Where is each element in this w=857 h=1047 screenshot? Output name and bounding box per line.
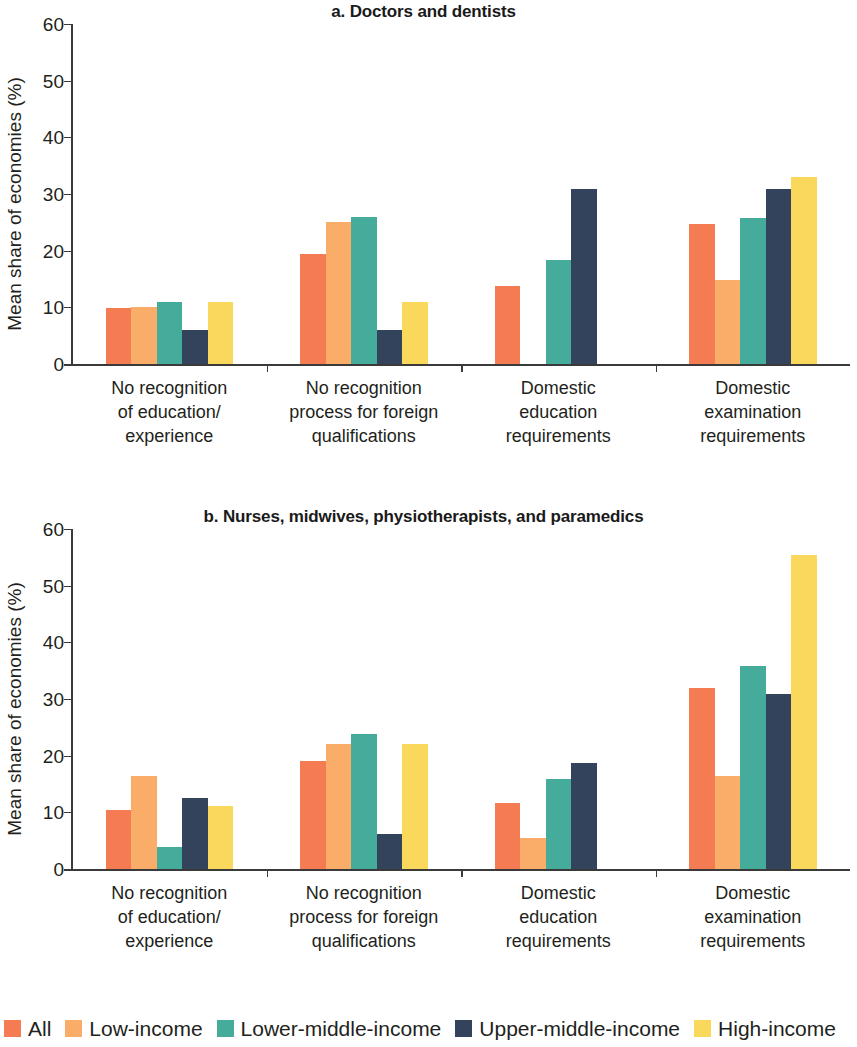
x-tick-label: Domesticexaminationrequirements xyxy=(656,376,851,448)
x-tick-label-line: requirements xyxy=(461,929,656,953)
x-tick-label-line: Domestic xyxy=(461,376,656,400)
x-group-separator xyxy=(656,869,658,877)
x-tick-label: No recognitionof education/experience xyxy=(72,376,267,448)
bar xyxy=(402,744,428,869)
y-tick-mark xyxy=(64,137,71,138)
y-tick-mark xyxy=(64,756,71,757)
bar xyxy=(106,308,132,364)
x-tick-label-line: No recognition xyxy=(267,376,462,400)
y-tick-mark xyxy=(64,642,71,643)
bar xyxy=(546,779,572,869)
y-tick-mark xyxy=(64,24,71,25)
x-tick-label-line: No recognition xyxy=(72,881,267,905)
panel-a-y-axis-label: Mean share of economies (%) xyxy=(2,24,28,384)
x-tick-label-line: Domestic xyxy=(656,376,851,400)
bar xyxy=(157,847,183,869)
bar xyxy=(182,798,208,869)
x-tick-label-line: of education/ xyxy=(72,905,267,929)
bar xyxy=(377,834,403,869)
bar xyxy=(300,761,326,869)
y-tick-mark xyxy=(64,699,71,700)
x-tick-label-line: Domestic xyxy=(656,881,851,905)
legend-item: All xyxy=(4,1018,51,1039)
bar xyxy=(715,776,741,869)
chart-panel-a: a. Doctors and dentists Mean share of ec… xyxy=(0,0,857,500)
x-group-separator xyxy=(267,869,269,877)
legend-label: Upper-middle-income xyxy=(479,1018,680,1039)
chart-panel-b: b. Nurses, midwives, physiotherapists, a… xyxy=(0,505,857,1005)
bar xyxy=(208,806,234,869)
x-tick-label-line: requirements xyxy=(656,424,851,448)
legend-swatch-icon xyxy=(694,1020,711,1037)
x-group-separator xyxy=(461,869,463,877)
legend-item: Lower-middle-income xyxy=(217,1018,442,1039)
y-tick-label: 0 xyxy=(53,355,64,374)
legend-label: High-income xyxy=(718,1018,836,1039)
bar xyxy=(571,763,597,869)
y-tick-label: 0 xyxy=(53,860,64,879)
bar xyxy=(689,688,715,869)
panel-b-y-axis-label: Mean share of economies (%) xyxy=(2,529,28,889)
bar xyxy=(131,307,157,364)
bar xyxy=(351,734,377,869)
y-tick-label: 20 xyxy=(43,746,64,765)
panel-b-x-tick-labels: No recognitionof education/experienceNo … xyxy=(72,881,850,971)
bar xyxy=(326,744,352,869)
x-tick-label: Domesticeducationrequirements xyxy=(461,881,656,953)
x-tick-label-line: education xyxy=(461,400,656,424)
y-tick-label: 10 xyxy=(43,803,64,822)
x-tick-label-line: education xyxy=(461,905,656,929)
panel-b-x-axis-line xyxy=(64,869,850,871)
bar xyxy=(208,302,234,364)
bar xyxy=(520,838,546,869)
bar xyxy=(571,189,597,364)
bar xyxy=(326,222,352,364)
bar xyxy=(766,189,792,364)
y-tick-label: 20 xyxy=(43,241,64,260)
chart-legend: AllLow-incomeLower-middle-incomeUpper-mi… xyxy=(0,1012,857,1044)
y-tick-mark xyxy=(64,81,71,82)
panel-a-title: a. Doctors and dentists xyxy=(0,0,857,24)
bar xyxy=(740,666,766,869)
panel-a-bars xyxy=(72,24,850,364)
y-tick-label: 40 xyxy=(43,128,64,147)
x-tick-label-line: process for foreign xyxy=(267,905,462,929)
y-tick-label: 30 xyxy=(43,690,64,709)
x-tick-label-line: No recognition xyxy=(267,881,462,905)
x-tick-label-line: No recognition xyxy=(72,376,267,400)
x-tick-label: Domesticeducationrequirements xyxy=(461,376,656,448)
bar xyxy=(182,330,208,364)
y-tick-mark xyxy=(64,529,71,530)
legend-label: Lower-middle-income xyxy=(241,1018,442,1039)
bar xyxy=(402,302,428,364)
x-tick-label-line: experience xyxy=(72,424,267,448)
panel-a-x-axis-line xyxy=(64,364,850,366)
panel-b-title: b. Nurses, midwives, physiotherapists, a… xyxy=(0,505,857,529)
x-group-separator xyxy=(656,364,658,372)
x-tick-label-line: Domestic xyxy=(461,881,656,905)
bar xyxy=(300,254,326,365)
bar xyxy=(791,555,817,869)
panel-b-y-tick-labels: 0102030405060 xyxy=(28,529,64,889)
x-group-separator xyxy=(267,364,269,372)
panel-b-plot: Mean share of economies (%) 010203040506… xyxy=(0,529,857,929)
bar xyxy=(715,280,741,364)
y-tick-mark xyxy=(64,194,71,195)
panel-b-bars xyxy=(72,529,850,869)
legend-item: Upper-middle-income xyxy=(455,1018,680,1039)
x-tick-label-line: process for foreign xyxy=(267,400,462,424)
y-tick-label: 50 xyxy=(43,71,64,90)
legend-swatch-icon xyxy=(217,1020,234,1037)
panel-a-y-tick-labels: 0102030405060 xyxy=(28,24,64,384)
bar xyxy=(495,286,521,364)
legend-item: Low-income xyxy=(65,1018,202,1039)
y-tick-mark xyxy=(64,812,71,813)
panel-a-x-tick-labels: No recognitionof education/experienceNo … xyxy=(72,376,850,466)
y-tick-label: 40 xyxy=(43,633,64,652)
legend-label: All xyxy=(28,1018,51,1039)
x-tick-label-line: examination xyxy=(656,905,851,929)
bar xyxy=(495,803,521,869)
y-tick-label: 60 xyxy=(43,15,64,34)
legend-swatch-icon xyxy=(455,1020,472,1037)
bar xyxy=(351,217,377,364)
